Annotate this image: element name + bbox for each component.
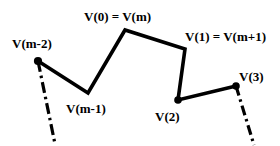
right-continuation-dashdot bbox=[236, 86, 254, 145]
figure-canvas: V(0) = V(m) V(1) = V(m+1) V(m-2) V(3) V(… bbox=[0, 0, 280, 146]
vertex-label-v3: V(3) bbox=[239, 70, 264, 84]
left-continuation-dashdot bbox=[38, 61, 55, 144]
vertex-dot-vm2 bbox=[34, 57, 42, 65]
vertex-label-v2: V(2) bbox=[155, 110, 180, 124]
vertex-label-vm2: V(m-2) bbox=[12, 37, 52, 51]
vertex-label-vm1: V(m-1) bbox=[66, 102, 106, 116]
vertex-label-v0: V(0) = V(m) bbox=[84, 10, 151, 24]
vertex-dot-v2 bbox=[174, 96, 182, 104]
vertex-label-v1: V(1) = V(m+1) bbox=[185, 30, 266, 44]
